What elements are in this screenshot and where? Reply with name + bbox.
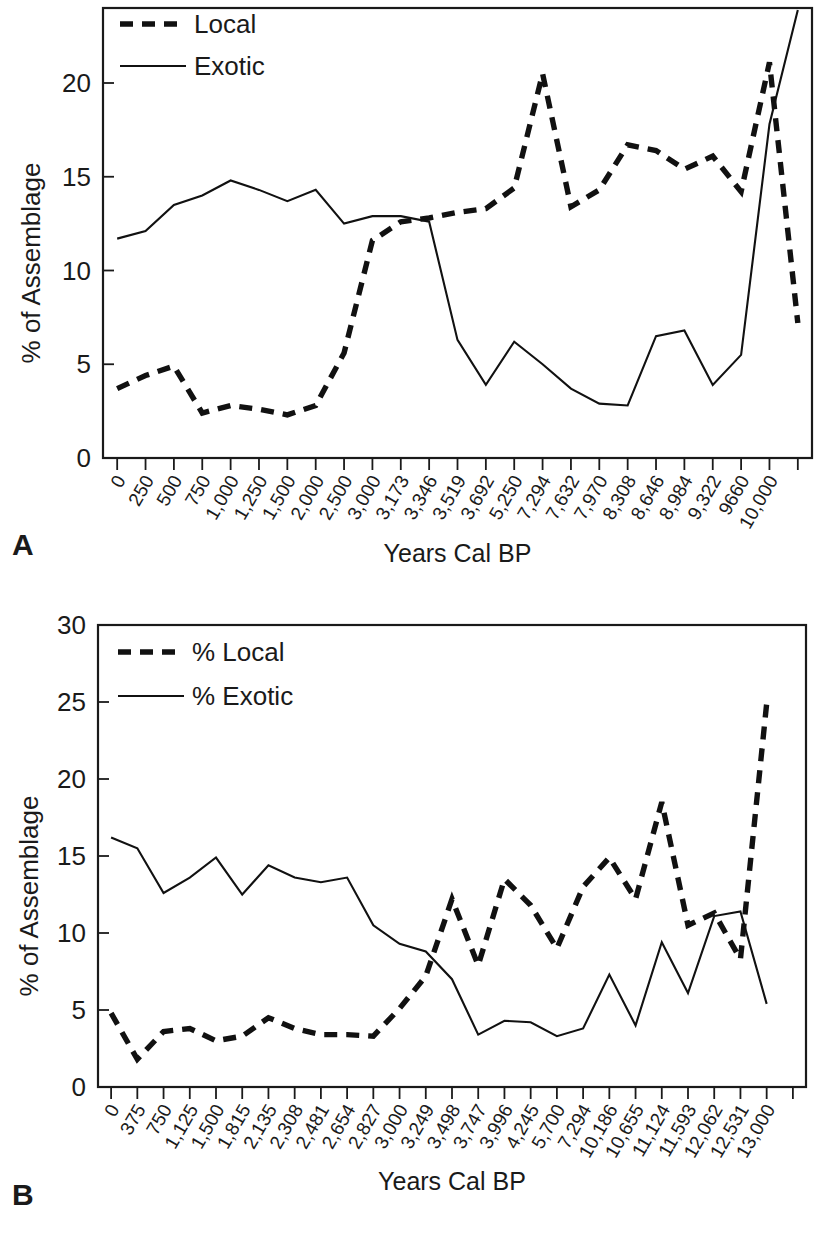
x-tick-label: 375 — [116, 1101, 150, 1139]
y-tick-label: 5 — [72, 995, 86, 1025]
y-tick-label: 15 — [57, 841, 86, 871]
series-line-local — [111, 704, 767, 1060]
y-tick-label: 20 — [57, 764, 86, 794]
panel-a-plot: 0510152002505007501,0001,2501,5002,0002,… — [0, 0, 817, 600]
y-axis-label: % of Assemblage — [14, 796, 44, 997]
y-tick-label: 30 — [57, 610, 86, 640]
series-line-local — [117, 62, 798, 415]
y-tick-label: 15 — [62, 162, 91, 192]
y-tick-label: 20 — [62, 68, 91, 98]
legend-label-1: % Exotic — [192, 681, 293, 711]
y-tick-label: 5 — [77, 349, 91, 379]
x-tick-label: 500 — [152, 472, 186, 510]
panel-b-plot: 05101520253003757501,1251,5001,8152,1352… — [0, 600, 817, 1237]
x-axis-label: Years Cal BP — [378, 1167, 526, 1195]
x-tick-label: 250 — [124, 472, 158, 510]
y-tick-label: 10 — [62, 256, 91, 286]
figure-container: A 0510152002505007501,0001,2501,5002,000… — [0, 0, 817, 1237]
y-tick-label: 10 — [57, 918, 86, 948]
chart-panel-b: B 05101520253003757501,1251,5001,8152,13… — [0, 600, 817, 1237]
panel-a-svg: 0510152002505007501,0001,2501,5002,0002,… — [0, 0, 817, 600]
legend-label-0: Local — [194, 9, 256, 39]
x-tick-label: 0 — [100, 1101, 123, 1121]
series-line-exotic — [111, 838, 767, 1037]
y-tick-label: 25 — [57, 687, 86, 717]
panel-b-svg: 05101520253003757501,1251,5001,8152,1352… — [0, 600, 817, 1237]
legend-label-1: Exotic — [194, 51, 265, 81]
y-axis-label: % of Assemblage — [16, 163, 46, 364]
legend-label-0: % Local — [192, 637, 285, 667]
x-axis-label: Years Cal BP — [384, 539, 532, 567]
chart-panel-a: A 0510152002505007501,0001,2501,5002,000… — [0, 0, 817, 600]
y-tick-label: 0 — [77, 443, 91, 473]
y-tick-label: 0 — [72, 1072, 86, 1102]
x-tick-label: 0 — [106, 472, 129, 492]
